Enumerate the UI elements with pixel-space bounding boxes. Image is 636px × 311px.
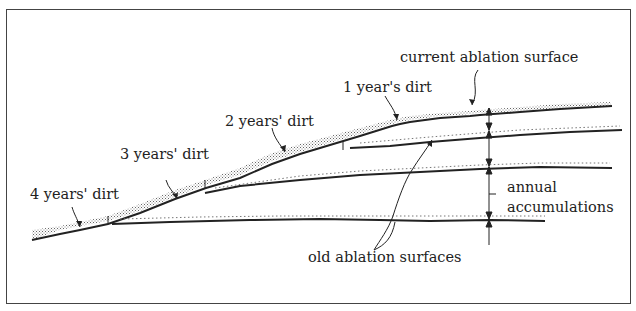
old-ablation-surface-3	[112, 219, 545, 224]
label-old-ablation-surfaces: old ablation surfaces	[308, 250, 461, 265]
label-1-years-dirt: 1 year's dirt	[343, 80, 432, 95]
leader-old-surfaces-upper	[374, 140, 432, 250]
old-ablation-surface-1	[350, 130, 622, 148]
label-2-years-dirt: 2 years' dirt	[225, 114, 314, 129]
label-4-years-dirt: 4 years' dirt	[30, 187, 119, 202]
annual-accumulation-arrows	[486, 108, 496, 245]
label-3-years-dirt: 3 years' dirt	[120, 147, 209, 162]
label-current-ablation-surface: current ablation surface	[400, 50, 578, 65]
label-accumulations: accumulations	[507, 200, 614, 215]
label-annual: annual	[507, 180, 557, 195]
